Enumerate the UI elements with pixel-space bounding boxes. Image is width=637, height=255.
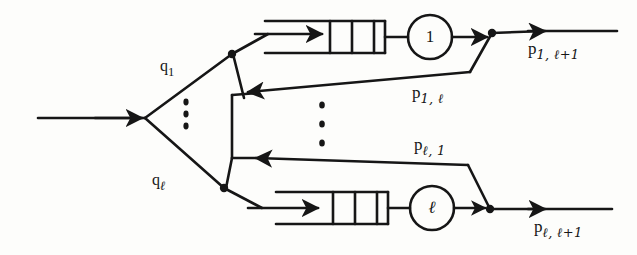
label-q1-sub: 1 (168, 65, 175, 79)
top-feed-line (232, 34, 268, 54)
label-p1-lplus1-base: p (528, 39, 537, 58)
label-q1-base: q (160, 57, 168, 74)
bottom-feedback-diag (468, 165, 490, 209)
label-ql-sub: ℓ (160, 178, 166, 193)
top-server-label: 1 (420, 27, 440, 47)
label-p1-lplus1: p1, ℓ+1 (528, 40, 579, 57)
label-pl-lplus1-sub: ℓ, ℓ+1 (543, 225, 583, 240)
fork-branch-top (145, 54, 232, 118)
fork-ellipsis-dot-3 (183, 123, 188, 130)
label-ql-base: q (152, 171, 160, 188)
bottom-feed-line (224, 188, 262, 208)
bottom-junction-up (226, 158, 232, 188)
label-pl-lplus1-base: p (534, 217, 543, 236)
top-feedback-bus-h (232, 93, 258, 95)
ellipsis-dots (183, 99, 324, 147)
label-p1-l-sub: 1, ℓ (421, 91, 444, 106)
label-pl-1: pℓ, 1 (414, 136, 446, 153)
fork-ellipsis-dot-2 (183, 111, 188, 118)
label-p1-l: p1, ℓ (412, 84, 444, 101)
bottom-server-label: ℓ (422, 198, 442, 218)
top-feedback-diag (470, 33, 492, 72)
label-ql: qℓ (152, 172, 166, 188)
center-ellipsis-dot-2 (319, 120, 325, 127)
label-p1-lplus1-sub: 1, ℓ+1 (537, 47, 580, 62)
label-pl-1-base: p (414, 135, 423, 154)
queueing-network-diagram: 1 ℓ q1 qℓ p1, ℓ+1 p1, ℓ pℓ, 1 pℓ, ℓ+1 (0, 0, 637, 255)
fork-ellipsis-dot-1 (183, 99, 188, 106)
center-ellipsis-dot-1 (319, 101, 325, 108)
label-p1-l-base: p (412, 83, 421, 102)
center-ellipsis-dot-3 (319, 139, 325, 146)
label-q1: q1 (160, 58, 175, 74)
top-junction-down (233, 54, 244, 98)
label-pl-lplus1: pℓ, ℓ+1 (534, 218, 583, 235)
label-pl-1-sub: ℓ, 1 (423, 143, 446, 158)
bottom-feedback-horiz (256, 158, 468, 165)
